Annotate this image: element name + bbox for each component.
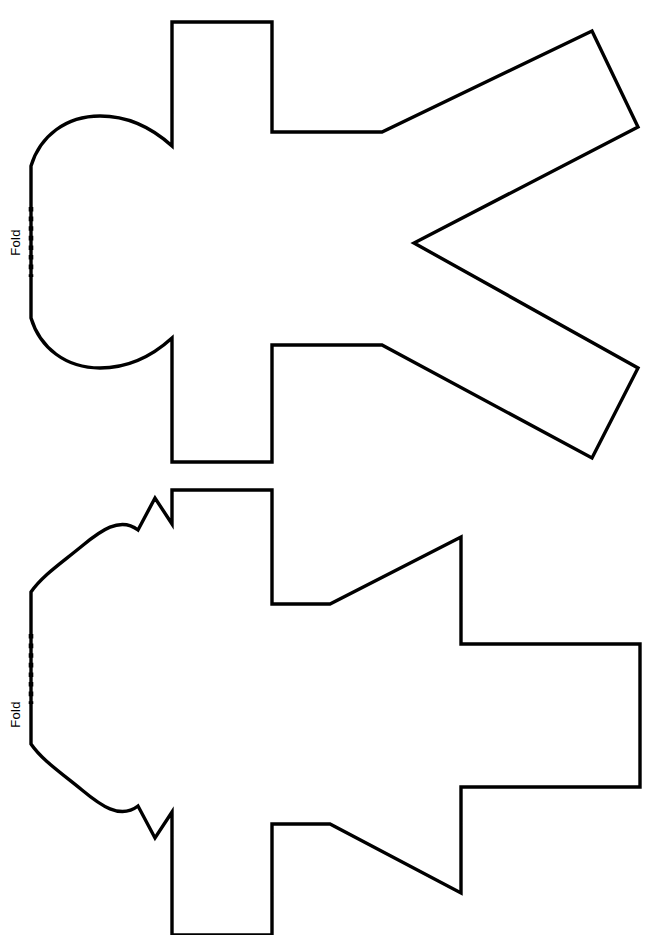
craft-template-page: with "Delightful Desk Markers" on page 5… [0,0,649,935]
fold-label-figure-bottom: Fold [8,692,23,738]
fold-label-figure-top: Fold [8,220,23,266]
page-background [0,0,649,935]
template-artboard [0,0,649,935]
